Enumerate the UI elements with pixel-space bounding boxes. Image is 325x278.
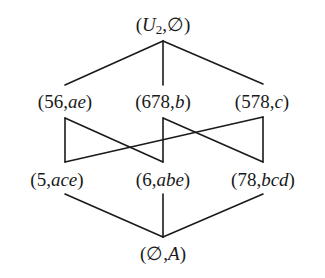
concept-lattice-diagram: (U2,∅) (56,ae) (678,b) (578,c) (5,ace) (… — [0, 0, 325, 278]
edge-56ae-6abe — [65, 118, 163, 162]
edges-bottom — [65, 194, 263, 237]
edges-middle — [65, 117, 263, 162]
edge-78bcd-bottom — [163, 194, 263, 237]
node-top-label: (U2,∅) — [136, 14, 191, 37]
node-578c-label: (578,c) — [235, 91, 289, 113]
node-78bcd-label: (78,bcd) — [231, 169, 295, 191]
node-56ae-label: (56,ae) — [38, 91, 92, 113]
edges-top — [65, 41, 263, 85]
node-bottom-label: (∅,A) — [140, 243, 186, 265]
node-5ace-label: (5,ace) — [30, 169, 83, 191]
edge-578c-5ace — [65, 117, 263, 162]
edge-top-56ae — [65, 41, 163, 85]
edge-top-578c — [163, 41, 263, 84]
node-678b-label: (678,b) — [135, 91, 190, 113]
edge-678b-78bcd — [163, 118, 263, 162]
node-6abe-label: (6,abe) — [136, 169, 190, 191]
edge-5ace-bottom — [65, 194, 163, 237]
